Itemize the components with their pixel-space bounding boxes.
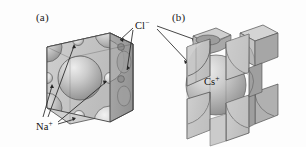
chloride-symbol: Cl [135, 20, 145, 31]
chloride-ion-label: Cl− [135, 20, 149, 31]
panel-b-label: (b) [172, 11, 185, 23]
sodium-ion-label: Na+ [36, 121, 53, 132]
cesium-charge: + [215, 74, 219, 83]
panel-b-unit-cell [186, 25, 278, 146]
sodium-charge: + [48, 119, 52, 128]
chloride-charge: − [145, 18, 149, 27]
cesium-symbol: Cs [204, 76, 215, 87]
panel-a-label: (a) [36, 11, 49, 23]
cesium-ion-label: Cs+ [204, 76, 220, 87]
figure-container: (a) (b) Cl− Na+ Cs+ [0, 0, 306, 147]
sodium-symbol: Na [36, 121, 48, 132]
